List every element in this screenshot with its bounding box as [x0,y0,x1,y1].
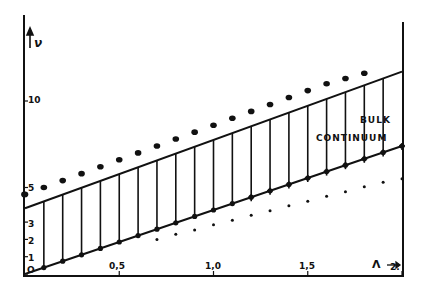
continuum-annotation: CONTINUUM [316,134,387,143]
bulk-annotation: BULK [360,116,391,125]
lower-boundary-dot [362,156,367,161]
y-tick-label-0: O [27,266,35,275]
y-axis-label: ν [34,37,43,49]
upper-level-dot [229,116,236,122]
y-tick-label-2: 2 [28,237,34,246]
lower-boundary-dot [399,143,404,148]
lower-boundary-dot [60,259,65,264]
upper-level-dot [191,129,198,135]
lower-boundary-dot [381,150,386,155]
y-tick-label-3: 3 [28,220,34,229]
lower-boundary-dot [324,169,329,174]
lower-boundary-dot [192,214,197,219]
lower-level-dot [174,233,177,236]
upper-level-dot [361,71,368,77]
lower-boundary-dot [249,195,254,200]
upper-level-dot [210,122,217,128]
lower-level-dot [155,238,158,241]
upper-level-dot [342,76,349,82]
upper-level-dot [97,164,104,170]
lower-level-dot [325,195,328,198]
upper-level-dot [248,109,255,115]
lower-level-dot [269,209,272,212]
upper-level-dot [41,185,48,191]
lower-boundary-dot [41,265,46,270]
lower-level-dot [231,219,234,222]
lower-boundary-dot [154,227,159,232]
lower-boundary-dot [267,188,272,193]
upper-level-dot [116,157,123,163]
upper-level-dot [267,102,274,108]
lower-level-dot [344,190,347,193]
y-tick-label-5: 5 [28,184,34,193]
lower-level-dot [193,228,196,231]
lower-level-dot [401,177,404,180]
lower-level-dot [363,185,366,188]
y-tick-label-1: 1 [28,254,34,263]
x-axis-label: Λ [372,259,382,270]
lower-boundary-dot [343,163,348,168]
lower-boundary-dot [136,233,141,238]
x-tick-label-1-5: 1,5 [299,262,315,271]
upper-level-dot [59,178,66,184]
y-tick-label-10: 10 [28,96,41,105]
upper-level-dot [173,136,180,142]
upper-level-dot [323,81,330,87]
lower-level-dot [212,223,215,226]
x-tick-label-1-0: 1,0 [205,262,221,271]
lower-boundary-dot [117,239,122,244]
upper-level-dot [154,143,161,149]
lower-level-dot [287,204,290,207]
y-axis-arrow-icon [27,28,33,48]
x-tick-label-0-5: 0,5 [109,262,125,271]
lower-level-dot [306,200,309,203]
lower-level-dot [382,181,385,184]
continuum-hatching [44,78,383,267]
lower-level-dot [250,214,253,217]
lower-boundary-dot [79,252,84,257]
upper-level-dot [135,150,142,156]
lower-boundary-dot [98,246,103,251]
upper-level-dot [304,88,311,94]
axis-level-dot [21,192,27,198]
upper-level-dot [78,171,85,177]
lower-boundary-dot [230,201,235,206]
lower-boundary-dot [173,220,178,225]
lower-boundary-dot [286,182,291,187]
chart-plot [0,0,422,298]
x-tick-label-2: 2. [390,263,400,272]
lower-boundary-dot [305,175,310,180]
upper-level-dot [286,95,293,101]
lower-boundary-dot [211,207,216,212]
